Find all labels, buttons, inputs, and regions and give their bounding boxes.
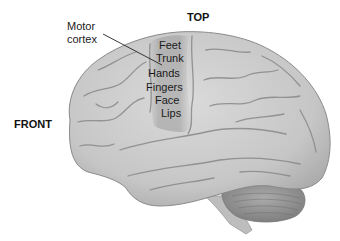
brain-diagram: TOP FRONT Motor cortex Feet Trunk Hands … [0,0,340,241]
cerebrum-shape [69,32,330,206]
front-orientation-label: FRONT [14,119,52,130]
motor-map-label-face: Face [155,95,179,106]
motor-map-label-hands: Hands [148,68,180,79]
callout-label-line2: cortex [67,34,97,45]
motor-map-label-lips: Lips [161,108,181,119]
motor-map-label-trunk: Trunk [156,53,184,64]
top-orientation-label: TOP [187,12,209,23]
motor-map-label-fingers: Fingers [146,82,183,93]
motor-map-label-feet: Feet [159,40,181,51]
callout-label-line1: Motor [67,21,95,32]
